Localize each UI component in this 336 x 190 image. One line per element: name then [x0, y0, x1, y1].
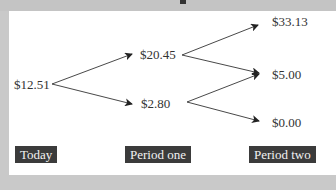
node-period-two-middle-value: $5.00: [272, 68, 301, 81]
period-label-period-one: Period one: [125, 146, 191, 163]
node-period-one-up-value: $20.45: [140, 48, 176, 61]
arrow-up-middle: [182, 55, 259, 73]
period-label-today: Today: [15, 146, 57, 163]
arrow-today-up: [52, 54, 132, 84]
node-period-two-downdown-value: $0.00: [272, 116, 301, 129]
arrow-today-down: [52, 84, 132, 104]
arrow-up-upup: [182, 25, 258, 55]
period-label-period-two: Period two: [249, 146, 316, 163]
node-period-two-upup-value: $33.13: [272, 15, 308, 28]
arrow-down-middle: [187, 74, 259, 102]
arrow-down-downdown: [187, 102, 259, 121]
node-period-one-down-value: $2.80: [141, 97, 170, 110]
node-today-value: $12.51: [14, 78, 50, 91]
